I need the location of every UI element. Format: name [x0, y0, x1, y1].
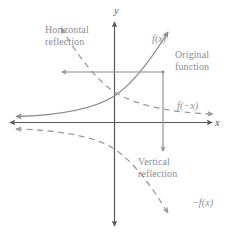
- reflection-diagram: Horizontal reflection f(x) Original func…: [0, 0, 229, 240]
- label-x-axis: x: [215, 117, 220, 129]
- label-y-axis: y: [114, 5, 119, 17]
- label-vertical-reflection: Vertical reflection: [138, 156, 188, 179]
- label-horizontal-reflection: Horizontal reflection: [45, 24, 107, 47]
- label-f-of-x: f(x): [152, 33, 166, 45]
- label-original-function: Original function: [175, 49, 227, 72]
- curve-point-marker: [162, 71, 165, 74]
- label-f-of-minus-x: f(−x): [177, 100, 198, 112]
- label-minus-f-of-x: −f(x): [192, 197, 213, 209]
